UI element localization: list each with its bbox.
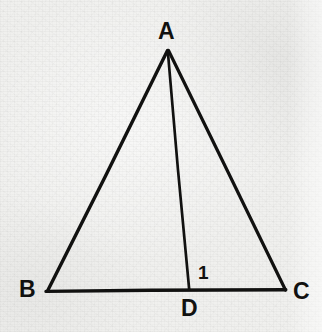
segment-ab (48, 51, 168, 292)
angle-label-1: 1 (198, 263, 209, 282)
vertex-label-a: A (158, 20, 175, 43)
geometry-figure: A B C D 1 (0, 0, 322, 332)
vertex-label-b: B (19, 278, 36, 301)
vertex-label-d: D (181, 297, 198, 320)
triangle-diagram-svg (0, 0, 322, 332)
vertex-label-c: C (293, 280, 310, 303)
segment-bc (46, 290, 286, 292)
